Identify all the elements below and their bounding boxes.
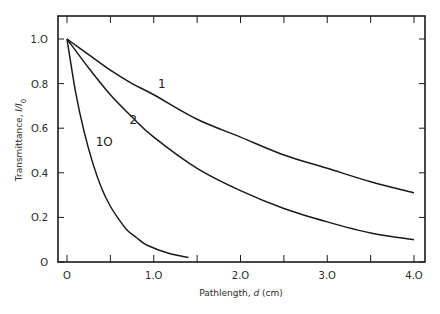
transmittance-chart: O1.O2.O3.O4.OOO.2O.4O.6O.81.O 121O Pathl… [0, 0, 440, 314]
curve-10 [67, 39, 188, 258]
curve-label: 1O [96, 135, 113, 149]
plot-frame [58, 16, 425, 262]
y-tick-label: O.6 [31, 123, 48, 134]
y-axis-label: Transmittance, I/I0 [14, 99, 28, 182]
data-curves [67, 39, 414, 258]
tick-labels: O1.O2.O3.O4.OOO.2O.4O.6O.81.O [31, 34, 423, 281]
x-axis-label: Pathlength, d (cm) [199, 288, 283, 298]
x-tick-label: 2.O [232, 270, 250, 281]
x-tick-label: 3.O [319, 270, 337, 281]
y-tick-label: O.8 [31, 79, 48, 90]
x-tick-label: 4.O [405, 270, 423, 281]
curve-1 [67, 39, 414, 193]
x-tick-label: 1.O [145, 270, 163, 281]
caption-strip [0, 300, 440, 314]
y-tick-label: O.2 [31, 212, 48, 223]
curve-2 [67, 39, 414, 240]
y-tick-label: O.4 [31, 168, 48, 179]
x-tick-label: O [63, 270, 71, 281]
curve-label: 1 [158, 77, 166, 91]
axis-ticks [58, 16, 425, 262]
y-tick-label: O [40, 257, 48, 268]
y-tick-label: 1.O [31, 34, 49, 45]
curve-label: 2 [129, 113, 137, 127]
